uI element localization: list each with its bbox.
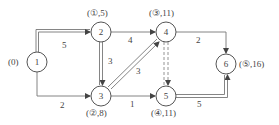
edge-2-4: 4 — [111, 32, 155, 45]
edge-weight: 1 — [130, 99, 135, 109]
svg-text:1: 1 — [35, 57, 40, 67]
edge-weight: 5 — [62, 40, 67, 50]
edge-weight: 4 — [128, 35, 133, 45]
svg-text:4: 4 — [164, 27, 169, 37]
edge-1-2: 5 — [36, 30, 90, 53]
svg-text:2: 2 — [99, 27, 104, 37]
edge-2-3: 3 — [100, 42, 114, 85]
edge-4-5 — [164, 42, 168, 85]
edge-5-6: 5 — [176, 75, 228, 109]
node-6: 6 (⑤,16) — [216, 54, 264, 74]
edge-weight: 3 — [136, 66, 141, 76]
node-annotation: (④,11) — [151, 108, 176, 118]
node-1: 1 (0) — [8, 52, 47, 72]
edge-weight: 2 — [60, 100, 65, 110]
node-annotation: (②,8) — [86, 108, 107, 118]
edge-3-5: 1 — [111, 96, 155, 109]
node-annotation: (③,11) — [149, 8, 174, 18]
svg-text:6: 6 — [224, 59, 229, 69]
edge-weight: 5 — [197, 99, 202, 109]
svg-text:5: 5 — [164, 91, 169, 101]
edge-3-4: 3 — [108, 39, 159, 89]
node-annotation: (0) — [8, 57, 19, 67]
node-2: 2 (①,5) — [87, 8, 111, 42]
node-5: 5 (④,11) — [151, 86, 176, 118]
svg-text:3: 3 — [99, 91, 104, 101]
edge-weight: 3 — [108, 56, 113, 66]
edge-weight: 2 — [196, 35, 201, 45]
network-diagram: 5 2 4 3 3 1 2 5 1 — [0, 0, 279, 125]
node-annotation: (⑤,16) — [239, 59, 264, 69]
edge-1-3: 2 — [37, 72, 90, 110]
edge-4-6: 2 — [176, 32, 226, 53]
node-annotation: (①,5) — [87, 8, 108, 18]
node-4: 4 (③,11) — [149, 8, 176, 42]
node-3: 3 (②,8) — [86, 86, 111, 118]
